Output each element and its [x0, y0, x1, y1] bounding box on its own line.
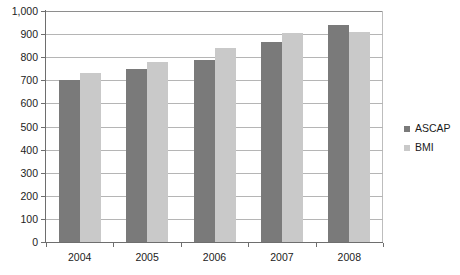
- y-axis-tick: [41, 196, 46, 197]
- legend-item-ascap: ASCAP: [404, 119, 460, 138]
- x-axis-tick: [113, 243, 114, 247]
- bar-bmi-2007: [282, 33, 303, 242]
- y-axis-label: 700: [0, 75, 38, 86]
- y-axis-tick: [41, 219, 46, 220]
- x-axis-label-2007: 2007: [252, 252, 312, 263]
- y-axis-label: 900: [0, 29, 38, 40]
- y-axis-label: 200: [0, 191, 38, 202]
- bar-ascap-2007: [261, 42, 282, 242]
- y-axis-tick: [41, 57, 46, 58]
- bar-ascap-2005: [126, 69, 147, 242]
- x-axis-tick: [383, 243, 384, 247]
- y-axis-label: 0: [0, 237, 38, 248]
- y-axis-tick: [41, 103, 46, 104]
- legend-item-bmi: BMI: [404, 138, 460, 157]
- plot-area: [46, 11, 383, 242]
- chart-legend: ASCAP BMI: [404, 119, 460, 157]
- bar-bmi-2004: [80, 73, 101, 242]
- legend-swatch-ascap-icon: [404, 126, 410, 132]
- y-axis-tick: [41, 34, 46, 35]
- y-axis-label: 100: [0, 214, 38, 225]
- bar-chart: 01002003004005006007008009001,000 200420…: [0, 0, 460, 275]
- legend-label-bmi: BMI: [415, 142, 434, 153]
- y-axis-label: 800: [0, 52, 38, 63]
- y-axis-label: 300: [0, 168, 38, 179]
- legend-swatch-bmi-icon: [404, 145, 410, 151]
- bar-bmi-2006: [215, 48, 236, 242]
- y-axis-label: 400: [0, 145, 38, 156]
- y-axis-label: 500: [0, 122, 38, 133]
- y-axis-tick: [41, 80, 46, 81]
- legend-label-ascap: ASCAP: [415, 123, 451, 134]
- x-axis-label-2004: 2004: [50, 252, 110, 263]
- bar-bmi-2005: [147, 62, 168, 242]
- x-axis-label-2005: 2005: [117, 252, 177, 263]
- bar-bmi-2008: [349, 32, 370, 242]
- bar-ascap-2004: [59, 80, 80, 242]
- x-axis-tick: [316, 243, 317, 247]
- x-axis-tick: [181, 243, 182, 247]
- x-axis-label-2008: 2008: [319, 252, 379, 263]
- plot-top-border: [46, 11, 383, 12]
- x-axis-line: [45, 242, 383, 243]
- y-axis-label: 600: [0, 98, 38, 109]
- y-axis-label: 1,000: [0, 6, 38, 17]
- bar-ascap-2008: [328, 25, 349, 242]
- x-axis-tick: [248, 243, 249, 247]
- bar-ascap-2006: [194, 60, 215, 242]
- y-axis-tick: [41, 173, 46, 174]
- x-axis-tick: [46, 243, 47, 247]
- x-axis-label-2006: 2006: [185, 252, 245, 263]
- y-axis-tick: [41, 150, 46, 151]
- y-axis-tick: [41, 127, 46, 128]
- y-axis-tick: [41, 11, 46, 12]
